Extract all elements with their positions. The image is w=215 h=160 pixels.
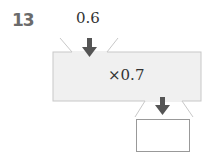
input-funnel-left xyxy=(60,38,72,52)
operation-label: ×0.7 xyxy=(108,66,144,84)
input-value: 0.6 xyxy=(76,9,100,27)
answer-box[interactable] xyxy=(136,119,190,152)
output-funnel-right xyxy=(182,101,193,117)
input-funnel-right xyxy=(107,38,118,52)
problem-number: 13 xyxy=(12,10,34,30)
output-funnel-left xyxy=(135,101,145,117)
